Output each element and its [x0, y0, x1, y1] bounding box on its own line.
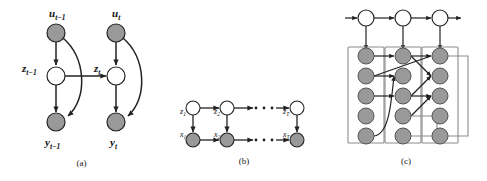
ellipsis-dot-bottom — [263, 139, 266, 142]
edge-u-curr-to-y-curr — [123, 38, 142, 116]
node-u-prev — [47, 24, 65, 42]
node-c3-r4 — [432, 108, 448, 124]
node-c3-r2 — [432, 68, 448, 84]
node-c1-r3 — [358, 88, 374, 104]
label-y-prev: yt−1 — [43, 136, 60, 151]
node-c1-r4 — [358, 108, 374, 124]
panel-a-graph: ut−1 ut zt−1 zt yt−1 yt — [0, 0, 163, 181]
label-u-curr: ut — [112, 7, 121, 22]
node-u-curr — [107, 24, 125, 42]
node-c2-r1 — [395, 48, 411, 64]
node-z-curr — [107, 67, 125, 85]
ellipsis-dot-top — [271, 107, 274, 110]
node-c2-r4 — [395, 108, 411, 124]
panel-b-caption: (b) — [163, 156, 325, 166]
node-y-prev — [47, 113, 65, 131]
ellipsis-dot-bottom — [255, 139, 258, 142]
figure-container: ut−1 ut zt−1 zt yt−1 yt (a) — [0, 0, 487, 181]
node-c1-r2 — [358, 68, 374, 84]
panel-c: (c) — [325, 0, 487, 181]
node-z-T — [290, 101, 304, 115]
panel-c-graph — [325, 0, 487, 181]
node-c3-r5 — [432, 128, 448, 144]
node-x-2 — [220, 133, 234, 147]
node-x-1 — [186, 133, 200, 147]
node-c1-r1 — [358, 48, 374, 64]
node-z-1 — [186, 101, 200, 115]
panel-a: ut−1 ut zt−1 zt yt−1 yt (a) — [0, 0, 163, 181]
node-c2-r2 — [395, 68, 411, 84]
node-c1-r5 — [358, 128, 374, 144]
label-z-curr: zt — [93, 62, 101, 77]
node-c2-r3 — [395, 88, 411, 104]
node-c3-r3 — [432, 88, 448, 104]
label-x-T: xT — [282, 130, 291, 140]
node-top-3 — [432, 10, 448, 26]
ellipsis-dot-top — [263, 107, 266, 110]
node-x-T — [290, 133, 304, 147]
panel-b: z1 z2 zT x1 x2 xT (b) — [163, 0, 325, 181]
node-top-2 — [395, 10, 411, 26]
label-x-1: x1 — [179, 130, 187, 140]
panel-c-caption: (c) — [325, 156, 487, 166]
panel-b-graph: z1 z2 zT x1 x2 xT — [163, 0, 325, 181]
panel-a-caption: (a) — [0, 158, 163, 168]
node-top-1 — [358, 10, 374, 26]
node-z-prev — [47, 67, 65, 85]
label-x-2: x2 — [213, 130, 221, 140]
ellipsis-dot-bottom — [271, 139, 274, 142]
node-c3-r1 — [432, 48, 448, 64]
node-c2-r5 — [395, 128, 411, 144]
label-y-curr: yt — [108, 136, 118, 151]
label-z-1: z1 — [179, 107, 186, 117]
ellipsis-dot-top — [255, 107, 258, 110]
node-z-2 — [220, 101, 234, 115]
node-y-curr — [107, 113, 125, 131]
label-z-2: z2 — [213, 107, 220, 117]
edge-u-prev-to-y-prev — [63, 38, 82, 116]
label-z-prev: zt−1 — [21, 62, 37, 77]
label-u-prev: ut−1 — [49, 7, 66, 22]
